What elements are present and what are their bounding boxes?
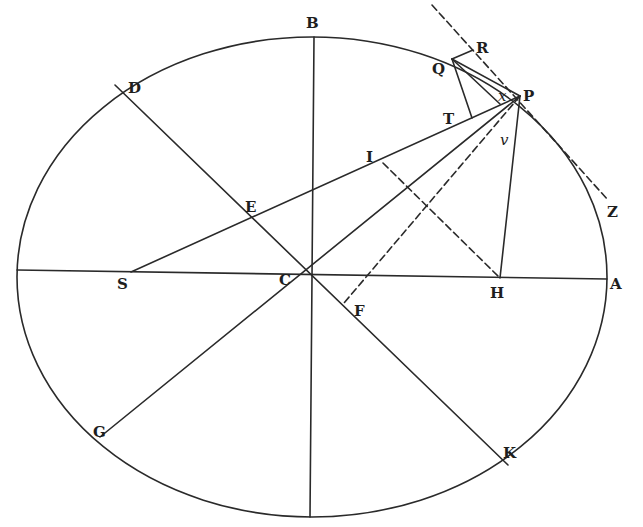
label-x: x [498, 87, 507, 105]
label-K: K [503, 444, 517, 462]
label-Q: Q [432, 60, 445, 78]
label-T: T [443, 110, 455, 128]
label-E: E [245, 198, 256, 216]
ellipse-diagram: BDEITQRxPvZSCHAFGK [0, 0, 643, 527]
label-A: A [609, 275, 622, 293]
label-Z: Z [607, 203, 618, 221]
tangent-RPZ [432, 5, 608, 200]
label-H: H [490, 284, 504, 302]
label-v: v [500, 131, 509, 149]
label-P: P [523, 87, 534, 105]
label-G: G [93, 423, 106, 441]
label-B: B [306, 14, 319, 32]
label-C: C [279, 271, 291, 289]
label-D: D [128, 79, 141, 97]
line-IH [383, 163, 500, 278]
label-I: I [366, 148, 373, 166]
label-R: R [476, 39, 489, 57]
line-SP [131, 96, 520, 272]
diameter-PG [100, 96, 520, 437]
label-F: F [354, 302, 365, 320]
line-QR [452, 50, 473, 59]
label-S: S [117, 275, 128, 293]
point-labels: BDEITQRxPvZSCHAFGK [93, 14, 622, 462]
line-PH [500, 96, 520, 278]
